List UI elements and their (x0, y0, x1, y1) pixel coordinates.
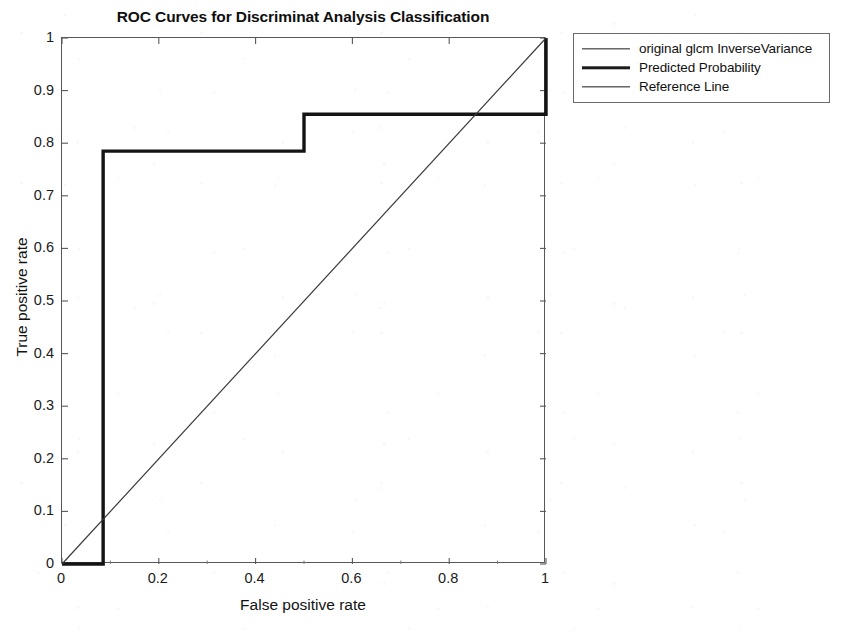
y-tick-label: 1 (10, 29, 54, 45)
legend-line-swatch-icon (580, 62, 632, 74)
legend-item-label: Reference Line (639, 79, 729, 94)
chart-title: ROC Curves for Discriminat Analysis Clas… (61, 8, 545, 26)
y-tick-label: 0.8 (10, 134, 54, 150)
x-axis-label: False positive rate (61, 596, 545, 614)
legend-line-swatch-icon (580, 43, 632, 55)
chart-legend: original glcm InverseVariancePredicted P… (573, 33, 830, 103)
y-tick-label: 0.2 (10, 450, 54, 466)
plot-area (61, 37, 545, 563)
legend-item-label: Predicted Probability (639, 60, 761, 75)
y-axis-label: True positive rate (13, 177, 31, 417)
y-tick-label: 0.9 (10, 82, 54, 98)
x-axis-tick-labels: 00.20.40.60.81 (61, 570, 545, 592)
x-tick-label: 1 (515, 570, 575, 586)
x-tick-label: 0.8 (418, 570, 478, 586)
legend-item[interactable]: Predicted Probability (580, 58, 823, 77)
x-tick-label: 0 (31, 570, 91, 586)
x-tick-label: 0.6 (321, 570, 381, 586)
plot-svg (62, 38, 546, 564)
legend-item-label: original glcm InverseVariance (639, 41, 812, 56)
legend-item[interactable]: Reference Line (580, 77, 823, 96)
x-tick-label: 0.2 (128, 570, 188, 586)
roc-chart-figure: ROC Curves for Discriminat Analysis Clas… (0, 0, 841, 632)
y-tick-label: 0.1 (10, 502, 54, 518)
legend-item[interactable]: original glcm InverseVariance (580, 39, 823, 58)
y-tick-label: 0 (10, 555, 54, 571)
x-tick-label: 0.4 (225, 570, 285, 586)
legend-line-swatch-icon (580, 81, 632, 93)
series-lines (62, 38, 546, 564)
